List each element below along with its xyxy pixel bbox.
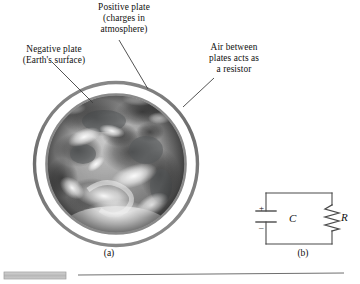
callout-positive-plate: Positive plate (charges in atmosphere) [70, 2, 178, 36]
capacitor-plus-sign: + [259, 204, 264, 213]
panel-label-a: (a) [94, 248, 124, 258]
resistor-zigzag [325, 205, 339, 231]
resistor-label: R [341, 211, 348, 223]
callout-negative-plate: Negative plate (Earth's surface) [4, 44, 104, 66]
figure-graphics [0, 0, 360, 284]
figure-container: Negative plate (Earth's surface) Positiv… [0, 0, 360, 284]
leader-line-air [183, 78, 214, 107]
capacitor-label: C [289, 212, 296, 224]
bottom-rule [78, 273, 344, 275]
callout-air-resistor: Air between plates acts as a resistor [186, 42, 282, 76]
panel-label-b: (b) [288, 248, 318, 258]
capacitor-minus-sign: – [259, 223, 264, 232]
rule-swatch [4, 272, 66, 279]
rc-circuit [256, 193, 339, 244]
